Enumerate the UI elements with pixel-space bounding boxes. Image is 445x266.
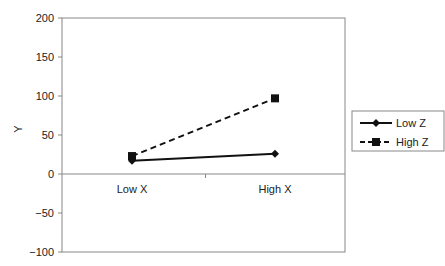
series-line-high-z bbox=[132, 98, 275, 156]
y-axis-label: Y bbox=[12, 125, 24, 133]
y-tick-label: 50 bbox=[42, 129, 54, 141]
series-line-low-z bbox=[132, 154, 275, 161]
square-marker bbox=[128, 152, 136, 160]
legend-label: Low Z bbox=[396, 117, 426, 129]
y-tick-label: −50 bbox=[35, 207, 54, 219]
y-tick-label: 200 bbox=[36, 12, 54, 24]
y-tick-label: 0 bbox=[48, 168, 54, 180]
y-tick-label: 150 bbox=[36, 51, 54, 63]
plot-area-border bbox=[62, 18, 345, 252]
y-tick-label: −100 bbox=[29, 246, 54, 258]
x-tick-label: Low X bbox=[117, 183, 148, 195]
x-tick-label: High X bbox=[258, 183, 292, 195]
line-chart: 200150100500−50−100Low XHigh XYLow ZHigh… bbox=[0, 0, 445, 266]
legend-label: High Z bbox=[396, 136, 429, 148]
legend-square-marker bbox=[372, 138, 380, 146]
square-marker bbox=[271, 94, 279, 102]
y-tick-label: 100 bbox=[36, 90, 54, 102]
diamond-marker bbox=[271, 150, 279, 158]
